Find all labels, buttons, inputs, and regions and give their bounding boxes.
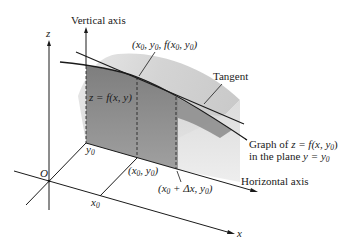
- vertical-axis-label: Vertical axis: [71, 14, 126, 26]
- origin-label: O: [40, 167, 48, 179]
- surface-label: z = f(x, y): [88, 91, 132, 104]
- tangent-label: Tangent: [213, 70, 248, 82]
- horizontal-axis-arrow-icon: [250, 188, 258, 192]
- x0-label: x0: [90, 196, 100, 210]
- point-base-label: (x0, y0): [128, 164, 158, 178]
- x-axis-arrow-icon: [227, 230, 235, 234]
- graph-label-line2: in the plane y = y0: [249, 150, 330, 164]
- point-base-dx-label: (x0 + Δx, y0): [158, 182, 213, 196]
- z-axis-label: z: [45, 27, 51, 39]
- horizontal-axis-label: Horizontal axis: [241, 175, 309, 187]
- z-axis-arrow-icon: [47, 40, 51, 46]
- partial-derivative-diagram: z Vertical axis (x0, y0, f(x0, y0) Tange…: [0, 0, 364, 252]
- vertical-axis-arrow-icon: [84, 27, 88, 33]
- y-axis: [26, 143, 86, 205]
- origin-point: [48, 180, 51, 183]
- x-axis-label: x: [236, 227, 242, 239]
- base-dx-leader: [177, 171, 181, 182]
- point-3d-label: (x0, y0, f(x0, y0): [132, 38, 197, 52]
- x-axis: [14, 171, 231, 233]
